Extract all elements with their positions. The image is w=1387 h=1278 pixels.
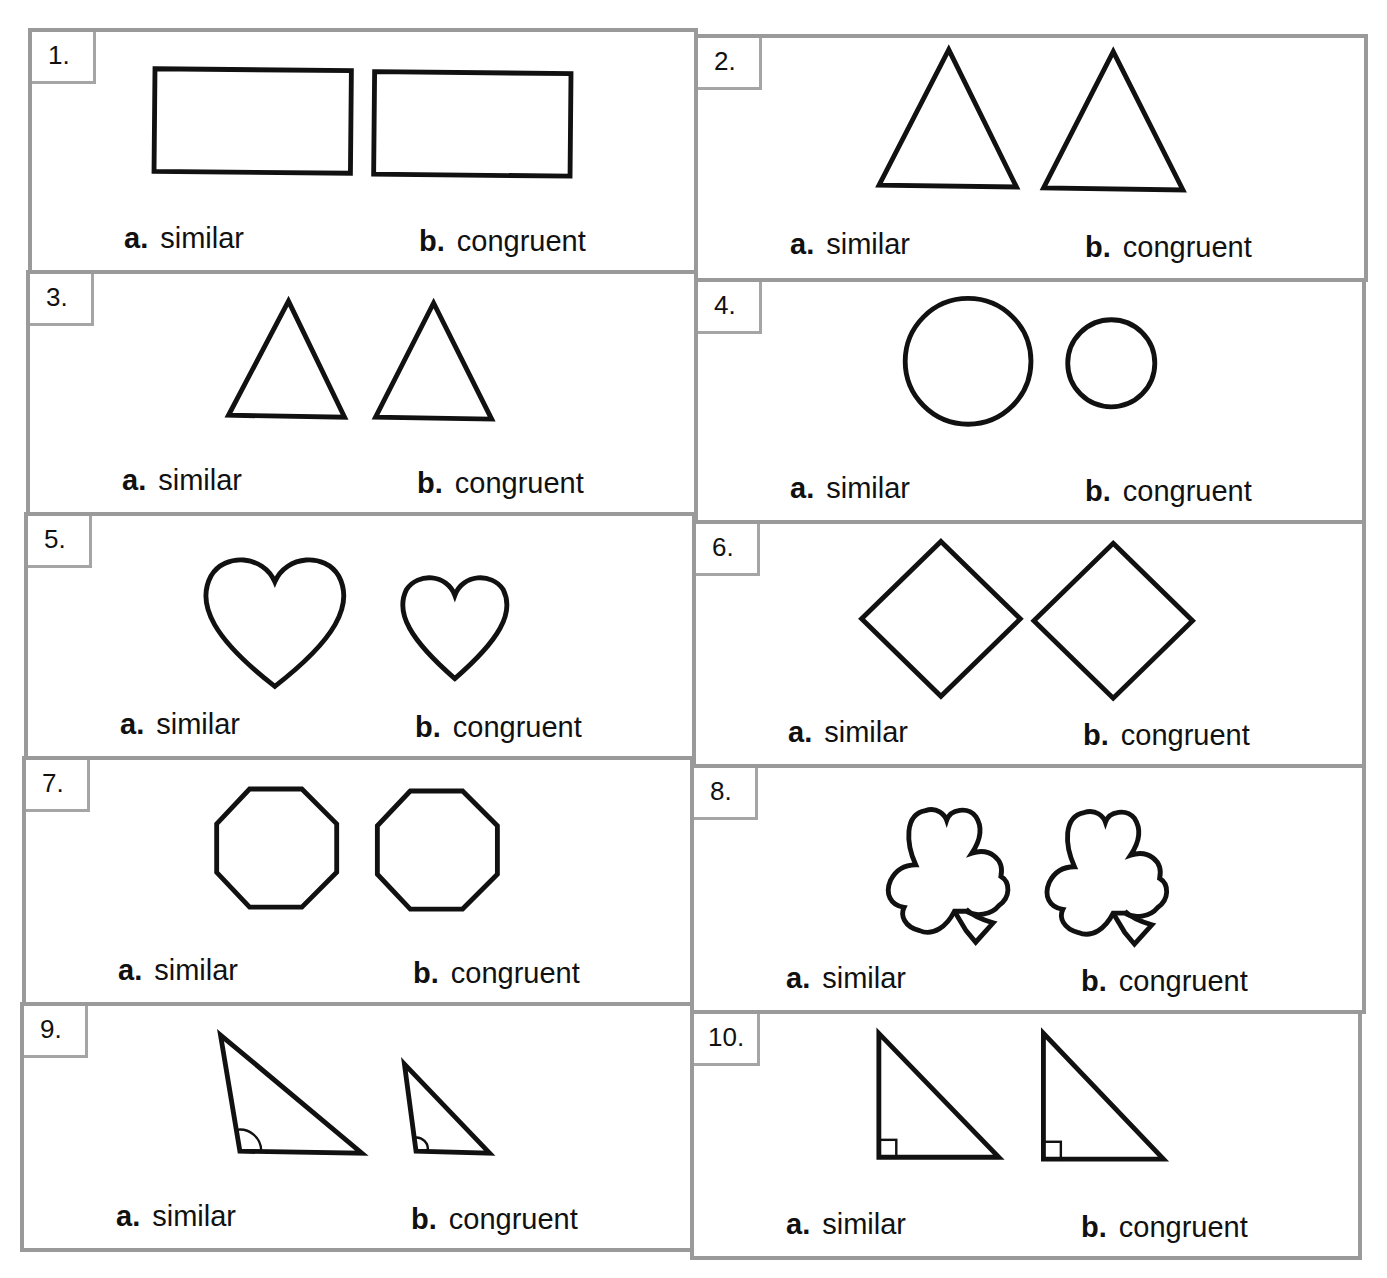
problem-9: 9. a.similar b.congruent <box>20 1002 694 1252</box>
problem-2: 2. a.similar b.congruent <box>694 34 1368 282</box>
problem-3: 3. a.similar b.congruent <box>26 270 698 516</box>
option-b[interactable]: b.congruent <box>419 225 586 258</box>
option-a[interactable]: a.similar <box>118 954 238 987</box>
option-b[interactable]: b.congruent <box>417 467 584 500</box>
option-a[interactable]: a.similar <box>786 1208 906 1241</box>
option-a[interactable]: a.similar <box>790 472 910 505</box>
option-a[interactable]: a.similar <box>116 1200 236 1233</box>
problem-1: 1. a.similar b.congruent <box>28 28 698 274</box>
option-b[interactable]: b.congruent <box>1085 231 1252 264</box>
option-b[interactable]: b.congruent <box>413 957 580 990</box>
problem-7: 7. a.similar b.congruent <box>22 756 694 1006</box>
problem-10: 10. a.similar b.congruent <box>690 1010 1362 1260</box>
option-b[interactable]: b.congruent <box>411 1203 578 1236</box>
problem-5: 5. a.similar b.congruent <box>24 512 696 760</box>
option-b[interactable]: b.congruent <box>1085 475 1252 508</box>
option-a[interactable]: a.similar <box>786 962 906 995</box>
option-b[interactable]: b.congruent <box>1081 965 1248 998</box>
option-a[interactable]: a.similar <box>120 708 240 741</box>
option-a[interactable]: a.similar <box>122 464 242 497</box>
option-b[interactable]: b.congruent <box>1083 719 1250 752</box>
problem-6: 6. a.similar b.congruent <box>692 520 1366 768</box>
problem-4: 4. a.similar b.congruent <box>694 278 1366 524</box>
problem-8: 8. a.similar b.congruent <box>690 764 1366 1014</box>
option-a[interactable]: a.similar <box>788 716 908 749</box>
option-a[interactable]: a.similar <box>124 222 244 255</box>
option-b[interactable]: b.congruent <box>415 711 582 744</box>
option-a[interactable]: a.similar <box>790 228 910 261</box>
option-b[interactable]: b.congruent <box>1081 1211 1248 1244</box>
